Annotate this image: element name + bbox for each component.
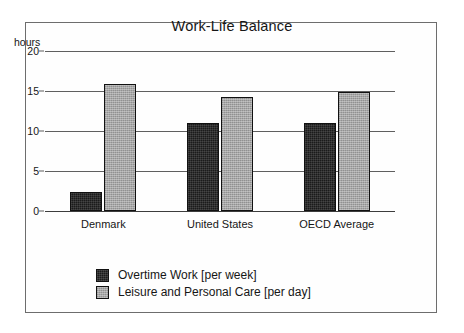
category-label: Denmark [81, 218, 126, 230]
legend-label-leisure-and-personal-care: Leisure and Personal Care [per day] [118, 285, 311, 299]
y-tick-label-5: 5 [33, 165, 39, 177]
tick-mark-10 [39, 131, 44, 132]
bar [304, 123, 336, 211]
y-tick-label-20: 20 [27, 45, 39, 57]
chart-title: Work-Life Balance [0, 18, 464, 34]
tick-mark-20 [39, 51, 44, 52]
y-tick-label-10: 10 [27, 125, 39, 137]
y-tick-label-15: 15 [27, 85, 39, 97]
y-tick-label-0: 0 [33, 205, 39, 217]
bar [104, 84, 136, 211]
legend-swatch-overtime-work [96, 269, 109, 282]
tick-mark-5 [39, 171, 44, 172]
chart-legend: Overtime Work [per week] Leisure and Per… [96, 268, 311, 299]
plot-area: 05101520 DenmarkUnited StatesOECD Averag… [45, 51, 395, 211]
legend-label-overtime-work: Overtime Work [per week] [118, 268, 256, 282]
bar [338, 92, 370, 211]
tick-mark-15 [39, 91, 44, 92]
legend-item-leisure-and-personal-care: Leisure and Personal Care [per day] [96, 285, 311, 299]
bar [221, 97, 253, 211]
legend-swatch-leisure-and-personal-care [96, 286, 109, 299]
legend-item-overtime-work: Overtime Work [per week] [96, 268, 311, 282]
bar [70, 192, 102, 211]
category-label: OECD Average [299, 218, 374, 230]
category-label: United States [187, 218, 253, 230]
bar [187, 123, 219, 211]
gridline-0 [45, 211, 395, 212]
tick-mark-0 [39, 211, 44, 212]
gridline-20 [45, 51, 395, 52]
